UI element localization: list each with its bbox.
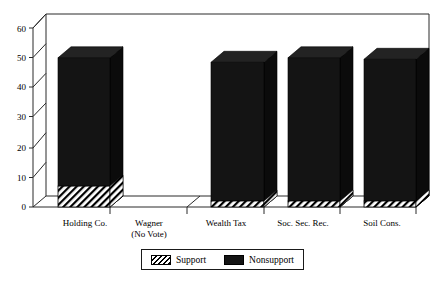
x-category-label-wagner: Wagner (No Vote): [110, 218, 188, 240]
x-category-line-1: Soil Cons.: [363, 218, 401, 228]
y-tick-label-40: 40: [4, 83, 26, 92]
y-tick-label-60: 60: [4, 25, 26, 34]
legend-entry-support: Support: [151, 255, 206, 265]
x-category-label-wealth-tax: Wealth Tax: [190, 218, 262, 229]
y-axis-ticks: [29, 14, 46, 207]
y-tick-label-0: 0: [4, 203, 26, 212]
bar-wealth-tax: [211, 51, 277, 207]
x-category-line-1: Soc. Sec. Rec.: [277, 218, 329, 228]
bar-soc-sec-rec: [288, 47, 353, 207]
chart-legend: Support Nonsupport: [141, 249, 304, 270]
bar-soil-cons: [364, 48, 429, 207]
x-category-line-1: Holding Co.: [63, 218, 108, 228]
bar-holding-co: [58, 47, 123, 207]
y-tick-label-30: 30: [4, 113, 26, 122]
hatch-swatch-icon: [151, 255, 171, 265]
x-category-label-soc-sec-rec: Soc. Sec. Rec.: [260, 218, 346, 229]
y-tick-label-20: 20: [4, 144, 26, 153]
legend-label-nonsupport: Nonsupport: [249, 255, 294, 265]
x-category-line-2: (No Vote): [110, 229, 188, 240]
chart-canvas: [0, 0, 444, 282]
x-category-line-1: Wagner: [135, 218, 163, 228]
bar-chart: 60 50 40 30 20 10 0 Holding Co. Wagner (…: [0, 0, 444, 282]
legend-label-support: Support: [176, 255, 206, 265]
x-category-label-soil-cons: Soil Cons.: [345, 218, 419, 229]
y-tick-label-10: 10: [4, 174, 26, 183]
y-tick-label-50: 50: [4, 54, 26, 63]
x-category-line-1: Wealth Tax: [206, 218, 247, 228]
solid-swatch-icon: [224, 255, 244, 265]
legend-entry-nonsupport: Nonsupport: [224, 255, 294, 265]
